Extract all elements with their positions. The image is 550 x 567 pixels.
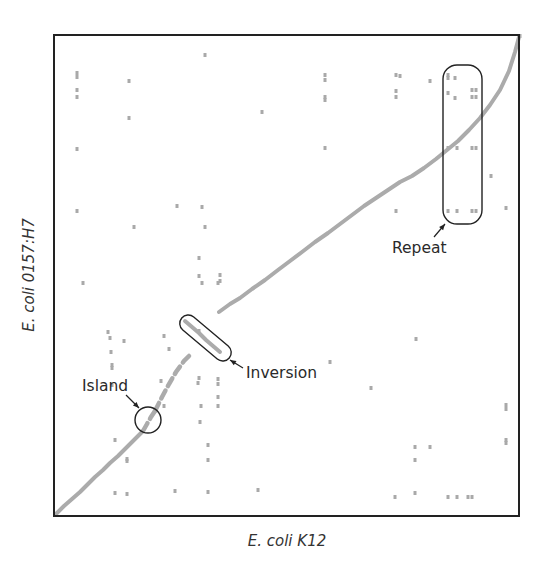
match-dot bbox=[109, 336, 112, 340]
match-dot bbox=[471, 88, 474, 92]
alignment-island-segment bbox=[143, 411, 155, 431]
match-dot bbox=[76, 88, 79, 92]
match-dot bbox=[471, 146, 474, 150]
match-dot bbox=[505, 403, 508, 407]
inversion-arrowhead-icon bbox=[230, 360, 236, 365]
match-dot bbox=[126, 492, 129, 496]
plot-frame bbox=[54, 35, 519, 516]
match-dot bbox=[329, 360, 332, 364]
match-dot bbox=[505, 441, 508, 445]
match-dot bbox=[261, 110, 264, 114]
match-dot bbox=[111, 366, 114, 370]
match-dot bbox=[471, 95, 474, 99]
match-dot bbox=[110, 350, 113, 354]
match-dot bbox=[467, 495, 470, 499]
match-dot bbox=[174, 489, 177, 493]
match-dot bbox=[456, 146, 459, 150]
match-dot bbox=[490, 174, 493, 178]
match-dot bbox=[414, 458, 417, 462]
match-dot bbox=[414, 445, 417, 449]
match-dot bbox=[324, 73, 327, 77]
match-dot bbox=[201, 281, 204, 285]
island-circle bbox=[135, 407, 161, 433]
match-dot bbox=[429, 445, 432, 449]
match-dot bbox=[204, 53, 207, 57]
match-dot bbox=[454, 76, 457, 80]
match-dot bbox=[207, 490, 210, 494]
match-dot bbox=[475, 95, 478, 99]
match-dot bbox=[76, 71, 79, 75]
match-dot bbox=[395, 89, 398, 93]
match-dot bbox=[505, 206, 508, 210]
match-dot bbox=[168, 347, 171, 351]
match-dot bbox=[456, 495, 459, 499]
match-dot bbox=[217, 377, 220, 381]
alignment-upper-segment bbox=[219, 37, 519, 312]
match-dot bbox=[471, 209, 474, 213]
y-axis-label: E. coli 0157:H7 bbox=[20, 218, 38, 332]
alignment-diagonal bbox=[56, 37, 519, 514]
island-label: Island bbox=[82, 377, 128, 395]
match-dot bbox=[114, 438, 117, 442]
match-dot bbox=[475, 146, 478, 150]
match-dot bbox=[471, 495, 474, 499]
match-dot bbox=[199, 420, 202, 424]
match-dot bbox=[200, 404, 203, 408]
match-dot bbox=[198, 256, 201, 260]
match-dot bbox=[395, 95, 398, 99]
match-dot bbox=[447, 76, 450, 80]
match-dot bbox=[429, 79, 432, 83]
inversion-annotation: Inversion bbox=[176, 312, 317, 382]
match-dot bbox=[217, 404, 220, 408]
match-dot bbox=[505, 407, 508, 411]
match-dot bbox=[447, 91, 450, 95]
match-dot bbox=[399, 74, 402, 78]
match-dot bbox=[207, 458, 210, 462]
match-dot bbox=[163, 404, 166, 408]
inversion-label: Inversion bbox=[246, 364, 317, 382]
match-dot bbox=[133, 225, 136, 229]
match-dot bbox=[201, 205, 204, 209]
match-dot bbox=[114, 491, 117, 495]
match-dot bbox=[217, 281, 220, 285]
match-dot bbox=[76, 209, 79, 213]
match-dot bbox=[76, 147, 79, 151]
match-dot bbox=[456, 209, 459, 213]
match-dot bbox=[415, 337, 418, 341]
match-dot bbox=[128, 79, 131, 83]
match-dot bbox=[160, 379, 163, 383]
match-dot bbox=[76, 75, 79, 79]
match-dot bbox=[163, 334, 166, 338]
match-dot bbox=[198, 376, 201, 380]
match-dot bbox=[370, 386, 373, 390]
match-dot bbox=[107, 330, 110, 334]
match-dot bbox=[76, 95, 79, 99]
match-dot bbox=[257, 488, 260, 492]
match-dot bbox=[324, 146, 327, 150]
match-dot bbox=[324, 78, 327, 82]
match-dot bbox=[219, 273, 222, 277]
match-dot bbox=[395, 209, 398, 213]
match-dot bbox=[82, 281, 85, 285]
match-dot bbox=[207, 443, 210, 447]
alignment-lower-segment bbox=[56, 431, 143, 514]
match-dot bbox=[176, 204, 179, 208]
match-dot bbox=[475, 88, 478, 92]
match-dot bbox=[414, 491, 417, 495]
match-dot bbox=[447, 495, 450, 499]
match-dot bbox=[204, 225, 207, 229]
match-dot bbox=[128, 116, 131, 120]
match-dot bbox=[123, 339, 126, 343]
repeat-annotation: Repeat bbox=[392, 65, 482, 257]
match-dot bbox=[198, 274, 201, 278]
match-dot bbox=[126, 459, 129, 463]
match-dot bbox=[324, 98, 327, 102]
x-axis-label: E. coli K12 bbox=[248, 532, 326, 550]
repeat-label: Repeat bbox=[392, 239, 447, 257]
match-dot bbox=[217, 395, 220, 399]
match-dot bbox=[395, 73, 398, 77]
match-dot bbox=[475, 209, 478, 213]
match-dot bbox=[394, 495, 397, 499]
match-dot bbox=[447, 209, 450, 213]
match-dot bbox=[197, 381, 200, 385]
